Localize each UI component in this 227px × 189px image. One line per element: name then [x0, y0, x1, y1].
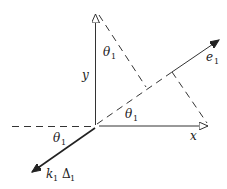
theta-bottom-label: θ [53, 131, 61, 145]
coordinate-rotation-diagram: y x e 1 θ 1 θ 1 θ 1 k 1 Δ 1 [0, 0, 227, 189]
theta-mid-subscript: 1 [133, 114, 138, 123]
e1-label: e [206, 50, 213, 64]
theta-top-subscript: 1 [111, 52, 116, 61]
e1-subscript: 1 [214, 57, 219, 66]
k-delta-vector [32, 128, 95, 172]
x-projection-dashed [172, 72, 207, 123]
theta-top-label: θ [103, 45, 111, 59]
k-subscript: 1 [53, 174, 58, 183]
delta-subscript: 1 [70, 174, 75, 183]
x-axis-label: x [190, 129, 197, 143]
theta-bottom-subscript: 1 [61, 138, 66, 147]
y-axis-label: y [81, 68, 89, 82]
theta-mid-label: θ [125, 107, 133, 121]
